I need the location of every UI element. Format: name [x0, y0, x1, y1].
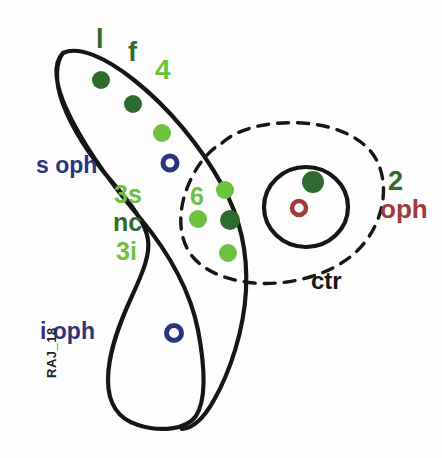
label-s-oph: s oph: [36, 154, 97, 177]
dashed-oval-outline: [181, 123, 384, 284]
label-ctr: ctr: [311, 269, 342, 293]
label-6: 6: [190, 184, 204, 209]
marker-dark-green-right-circle: [302, 171, 324, 193]
marker-dark-red-ring-oph: [292, 201, 306, 215]
marker-navy-ring-i-oph: [167, 326, 182, 341]
marker-light-green-center-bottom: [219, 244, 237, 262]
marker-dark-green-upper-1: [92, 71, 110, 89]
label-l: l: [96, 26, 104, 53]
marker-navy-ring-s-oph: [163, 156, 177, 170]
label-3i: 3i: [116, 239, 137, 264]
diagram-svg: [0, 0, 442, 458]
label-nc: nc: [113, 210, 142, 235]
label-3s: 3s: [114, 182, 142, 207]
artist-signature: RAJ_18: [45, 327, 58, 378]
marker-light-green-center-top: [216, 181, 234, 199]
marker-dark-green-center: [220, 210, 240, 230]
label-2: 2: [388, 168, 403, 195]
label-f: f: [128, 39, 137, 66]
marker-light-green-upper-1: [153, 124, 171, 142]
figure-canvas: l f 4 s oph 3s nc 3i 6 2 oph ctr i oph R…: [0, 0, 442, 458]
marker-dark-green-upper-2: [124, 95, 142, 113]
marker-light-green-center-left: [189, 210, 207, 228]
label-oph: oph: [380, 196, 428, 222]
label-4: 4: [155, 56, 171, 84]
